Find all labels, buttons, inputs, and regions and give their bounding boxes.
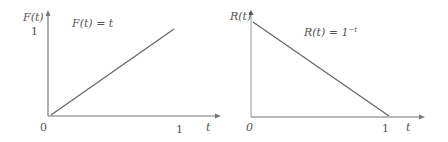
y-axis-label: R(t) <box>230 11 251 22</box>
equation-exponent: −t <box>349 26 358 34</box>
x-tick-1: 1 <box>382 123 389 134</box>
equation-label: R(t) = 1−t <box>304 27 357 38</box>
equation-base: R(t) = 1 <box>304 26 349 39</box>
x-axis-arrow-icon <box>419 115 425 120</box>
origin-label: 0 <box>246 122 253 133</box>
reliability-chart: R(t) R(t) = 1−t 0 1 t <box>0 0 448 142</box>
x-axis-label: t <box>406 122 410 133</box>
reliability-plot-area <box>0 0 448 142</box>
